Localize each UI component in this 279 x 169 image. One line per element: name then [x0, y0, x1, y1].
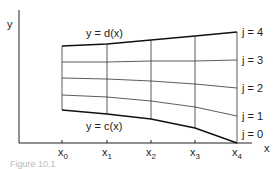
svg-text:j = 0: j = 0 [241, 128, 263, 140]
svg-text:x2: x2 [146, 146, 157, 161]
interior-grid-curves [62, 60, 237, 116]
svg-text:x4: x4 [232, 146, 243, 161]
svg-text:j = 2: j = 2 [241, 82, 263, 94]
y-axis-label: y [7, 18, 13, 30]
j-labels: j = 4 j = 3 j = 2 j = 1 j = 0 [241, 26, 263, 140]
figure-caption: Figure 10.1 [10, 159, 110, 169]
x-axis-label: x [264, 142, 270, 154]
svg-text:j = 1: j = 1 [241, 110, 263, 122]
svg-text:x3: x3 [190, 146, 201, 161]
curve-j2 [62, 78, 237, 88]
grid-diagram: y x y = d(x) y = c(x) j = 4 j = 3 j = 2 … [0, 0, 279, 169]
curve-j3 [62, 60, 237, 62]
svg-text:j = 3: j = 3 [241, 54, 263, 66]
svg-text:j = 4: j = 4 [241, 26, 263, 38]
top-curve-label: y = d(x) [86, 27, 123, 39]
bottom-curve-label: y = c(x) [86, 120, 122, 132]
